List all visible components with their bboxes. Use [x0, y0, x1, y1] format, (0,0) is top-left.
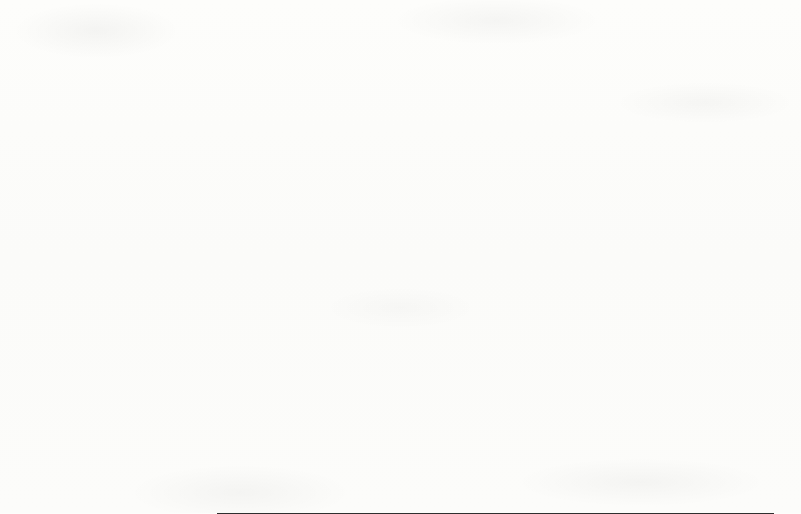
panel-plot-area [455, 60, 609, 438]
figure-note-bolsonaro: Graphs by bolsonaro [62, 444, 150, 455]
bar-supports [682, 91, 729, 437]
legend-entry: Supports [480, 489, 647, 511]
legend-swatch-does-not-support [222, 489, 304, 511]
chart-legend: Does not supportSupports [217, 483, 774, 514]
y-axis-tick-label: 40 [59, 194, 73, 224]
panel-plot-area [78, 60, 233, 438]
bar-does-not-support [255, 104, 300, 437]
y-axis-tick-label: 20 [436, 297, 450, 327]
y-axis-tick-label: 40 [436, 158, 450, 188]
panel-plot-area [616, 60, 776, 438]
bar-supports [143, 125, 189, 437]
legend-swatch-supports [480, 489, 562, 511]
bar-does-not-support [635, 91, 682, 437]
y-axis-tick-label: 30 [436, 228, 450, 258]
y-axis-title-haddad: percent [417, 236, 429, 274]
y-axis-tick-label: 50 [436, 88, 450, 118]
legend-label: Does not support [325, 491, 447, 509]
figure-note-haddad: Graphs by haddad [439, 444, 517, 455]
page-title: By Candidate Supported in 2018 [0, 1, 801, 22]
bar-supports [300, 162, 345, 437]
bar-does-not-support [97, 139, 143, 437]
legend-entry: Does not support [222, 489, 447, 511]
bar-supports [519, 102, 564, 437]
y-axis-tick-label: 60 [59, 72, 73, 102]
y-axis-title-bolsonaro: percent [40, 236, 52, 274]
y-axis-tick-label: 20 [59, 315, 73, 345]
panel-plot-area [237, 60, 389, 438]
legend-label: Supports [583, 491, 647, 509]
y-axis-tick-label: 10 [436, 367, 450, 397]
bar-does-not-support [474, 75, 519, 437]
